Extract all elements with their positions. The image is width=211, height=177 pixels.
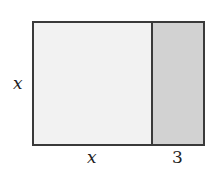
square-region [34,23,151,144]
divider-line [151,23,153,144]
shaded-strip-region [153,23,203,144]
bottom-label-x: x [87,149,97,166]
side-label-x: x [13,75,23,92]
bottom-label-3: 3 [172,149,183,166]
area-model-diagram: x x 3 [0,0,211,177]
